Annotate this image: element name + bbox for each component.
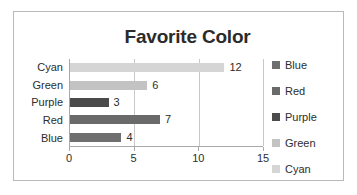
legend-label: Green <box>285 138 316 149</box>
legend-swatch-icon <box>272 139 280 147</box>
bar-series: 126374 <box>70 59 263 146</box>
bar-row: 7 <box>70 111 263 128</box>
bar <box>70 81 147 90</box>
chart-title: Favorite Color <box>14 26 343 48</box>
bar <box>70 63 224 72</box>
x-axis-tick <box>263 147 264 151</box>
bar-row: 3 <box>70 94 263 111</box>
x-axis-tick-label: 10 <box>192 153 204 164</box>
y-axis-label: Cyan <box>14 59 67 77</box>
legend-item[interactable]: Cyan <box>272 162 342 176</box>
bar-row: 12 <box>70 59 263 76</box>
chart-frame: Favorite Color CyanGreenPurpleRedBlue 12… <box>13 11 344 181</box>
y-axis-label: Purple <box>14 94 67 112</box>
bar <box>70 98 109 107</box>
y-axis-label: Red <box>14 112 67 130</box>
legend-item[interactable]: Red <box>272 84 342 98</box>
bar-value-label: 6 <box>152 80 158 91</box>
bar <box>70 133 121 142</box>
bar-value-label: 12 <box>229 62 241 73</box>
legend-label: Red <box>285 86 305 97</box>
bar-value-label: 7 <box>165 114 171 125</box>
bar-value-label: 4 <box>126 132 132 143</box>
legend-item[interactable]: Purple <box>272 110 342 124</box>
legend-label: Cyan <box>285 164 311 175</box>
legend-label: Purple <box>285 112 317 123</box>
y-axis-category-labels: CyanGreenPurpleRedBlue <box>14 59 67 147</box>
x-axis-tick-label: 5 <box>131 153 137 164</box>
bar-row: 4 <box>70 129 263 146</box>
legend-swatch-icon <box>272 165 280 173</box>
gridline <box>263 59 264 146</box>
chart-legend: BlueRedPurpleGreenCyan <box>272 58 342 176</box>
x-axis-tick <box>134 147 135 151</box>
bar-value-label: 3 <box>114 97 120 108</box>
x-axis-tick <box>198 147 199 151</box>
bar <box>70 115 160 124</box>
legend-swatch-icon <box>272 87 280 95</box>
y-axis-label: Green <box>14 77 67 95</box>
y-axis-label: Blue <box>14 129 67 147</box>
x-axis-tick-label: 0 <box>66 153 72 164</box>
legend-swatch-icon <box>272 113 280 121</box>
legend-item[interactable]: Green <box>272 136 342 150</box>
plot-area: 126374 <box>69 59 263 147</box>
x-axis-tick-label: 15 <box>257 153 269 164</box>
x-axis: 051015 <box>69 147 263 173</box>
legend-item[interactable]: Blue <box>272 58 342 72</box>
legend-swatch-icon <box>272 61 280 69</box>
bar-row: 6 <box>70 76 263 93</box>
legend-label: Blue <box>285 60 307 71</box>
x-axis-tick <box>69 147 70 151</box>
